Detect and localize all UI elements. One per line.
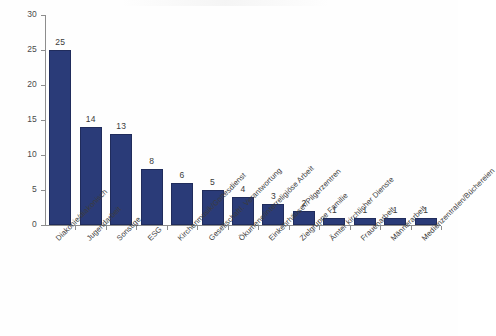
bar[interactable] <box>141 169 163 225</box>
scan-artifact <box>120 0 330 6</box>
y-tick-label: 30 <box>27 9 37 19</box>
bar-value-label: 2 <box>289 198 319 208</box>
y-tick-label: 5 <box>32 184 37 194</box>
bar-value-label: 1 <box>380 205 410 215</box>
x-tick-mark <box>167 226 168 230</box>
bar-value-label: 13 <box>106 121 136 131</box>
bar-value-label: 3 <box>258 191 288 201</box>
bar-value-label: 25 <box>45 37 75 47</box>
y-tick-0: 0 <box>41 225 46 226</box>
bar[interactable] <box>49 50 71 225</box>
y-tick-label: 15 <box>27 114 37 124</box>
bar-value-label: 1 <box>411 205 441 215</box>
bar-value-label: 5 <box>198 177 228 187</box>
bar[interactable] <box>171 183 193 225</box>
y-tick-mark <box>41 225 46 226</box>
x-axis-category-label: ESG <box>145 225 163 243</box>
y-tick-label: 0 <box>32 219 37 229</box>
y-tick-label: 10 <box>27 149 37 159</box>
bar-value-label: 8 <box>137 156 167 166</box>
bar-value-label: 1 <box>319 205 349 215</box>
bar-value-label: 4 <box>228 184 258 194</box>
bar-value-label: 14 <box>76 114 106 124</box>
y-tick-label: 25 <box>27 44 37 54</box>
y-tick-label: 20 <box>27 79 37 89</box>
bar-value-label: 1 <box>350 205 380 215</box>
bar-value-label: 6 <box>167 170 197 180</box>
